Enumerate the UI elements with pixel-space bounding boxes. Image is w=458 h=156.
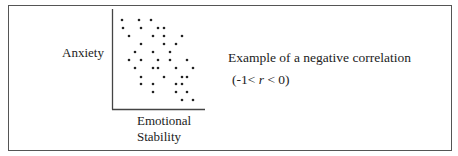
data-point (122, 27, 125, 30)
range-suffix: < 0) (264, 72, 290, 87)
data-point (169, 59, 172, 62)
data-point (121, 19, 124, 22)
caption-title: Example of a negative correlation (228, 50, 411, 65)
data-point (134, 51, 137, 54)
data-point (152, 91, 155, 94)
data-points (121, 19, 195, 102)
data-point (152, 51, 155, 54)
data-point (152, 83, 155, 86)
x-axis-label: Emotional Stability (137, 113, 191, 145)
data-point (169, 51, 172, 54)
range-prefix: (-1< (232, 72, 259, 87)
data-point (175, 43, 178, 46)
data-point (192, 67, 195, 70)
x-axis-label-line2: Stability (137, 129, 191, 145)
data-point (163, 43, 166, 46)
data-point (157, 67, 160, 70)
caption-range: (-1< r < 0) (228, 69, 411, 91)
data-point (128, 35, 131, 38)
data-point (134, 67, 137, 70)
data-point (140, 76, 143, 79)
data-point (157, 59, 160, 62)
data-point (140, 27, 143, 30)
data-point (175, 91, 178, 94)
data-point (140, 83, 143, 86)
data-point (152, 67, 155, 70)
x-axis-label-line1: Emotional (137, 113, 191, 129)
data-point (163, 27, 166, 30)
data-point (150, 19, 153, 22)
data-point (138, 19, 141, 22)
data-point (186, 59, 189, 62)
data-point (128, 59, 131, 62)
data-point (175, 67, 178, 70)
data-point (140, 43, 143, 46)
data-point (157, 27, 160, 30)
data-point (175, 83, 178, 86)
caption: Example of a negative correlation (-1< r… (228, 47, 411, 91)
data-point (181, 76, 184, 79)
data-point (186, 76, 189, 79)
data-point (181, 83, 184, 86)
data-point (140, 59, 143, 62)
data-point (152, 35, 155, 38)
data-point (181, 35, 184, 38)
data-point (192, 99, 195, 102)
data-point (163, 35, 166, 38)
data-point (163, 76, 166, 79)
data-point (181, 99, 184, 102)
data-point (186, 91, 189, 94)
